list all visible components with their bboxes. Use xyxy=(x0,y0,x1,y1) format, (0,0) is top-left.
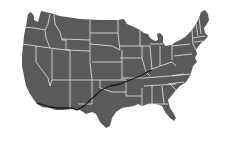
us-map xyxy=(0,0,232,148)
us-landmass xyxy=(22,10,209,128)
us-map-svg xyxy=(0,0,232,148)
